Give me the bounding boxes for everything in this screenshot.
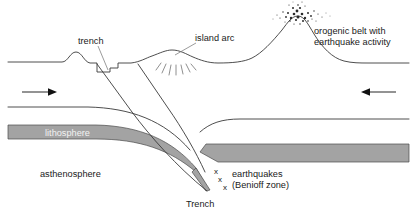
trench-leader-line (98, 46, 108, 70)
diagram-canvas: trench island arc orogenic belt with ear… (0, 0, 417, 215)
earthquakes-label-line2: (Benioff zone) (232, 180, 289, 190)
lithosphere-label: lithosphere (45, 128, 90, 138)
convergence-arrow-right (361, 88, 396, 96)
asthenosphere-label: asthenosphere (40, 169, 101, 179)
lithosphere-band-right (200, 144, 409, 162)
trench-upper-label: trench (78, 36, 104, 46)
benioff-x-mark-3: x (223, 183, 227, 192)
earthquakes-label-line1: earthquakes (232, 169, 283, 179)
orogenic-belt-label-line1: orogenic belt with (314, 26, 386, 36)
island-arc-label: island arc (195, 33, 235, 43)
trench-bottom-label: Trench (186, 199, 214, 209)
lithosphere-band-left (8, 125, 204, 182)
subduction-zone-diagram: trench island arc orogenic belt with ear… (0, 0, 417, 215)
ash-cloud-icon (273, 2, 331, 25)
island-arc-radiating-lines (156, 63, 196, 75)
convergence-arrow-left (22, 88, 57, 96)
slab-thrust-line (138, 64, 205, 172)
crust-base-right (200, 119, 409, 132)
subducting-slab-tip (192, 168, 210, 191)
benioff-x-mark-2: x (218, 175, 222, 184)
orogenic-belt-label-line2: earthquake activity (314, 37, 391, 47)
